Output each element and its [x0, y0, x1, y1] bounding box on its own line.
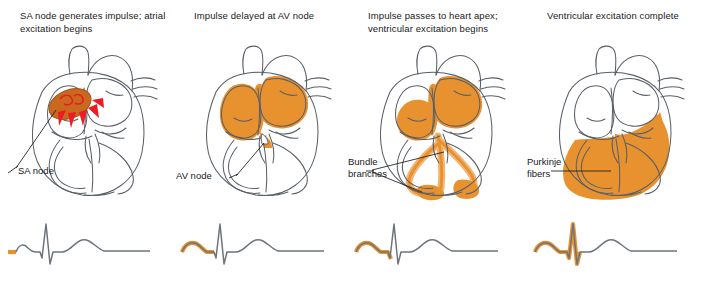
label-bundle-branches-line2: branches — [348, 168, 387, 180]
panel-4: Ventricular excitation complete — [527, 0, 701, 286]
left-atrium-outline — [86, 78, 132, 126]
valve-leaflet-3 — [276, 132, 298, 138]
aorta-outline — [417, 46, 437, 75]
cardiac-conduction-figure: SA node generates impulse; atrial excita… — [0, 0, 714, 286]
ecg-baseline-trace — [16, 224, 150, 264]
label-purkinje-fibers: Purkinje fibers — [527, 156, 561, 180]
panel-caption: SA node generates impulse; atrial excita… — [20, 10, 180, 35]
aorta-outline — [596, 46, 616, 75]
atrial-texture-left — [587, 118, 605, 121]
ecg-baseline-trace — [182, 224, 324, 264]
label-bundle-branches: Bundle branches — [348, 156, 387, 180]
vessel-branch-2 — [133, 87, 157, 89]
panel-1: SA node generates impulse; atrial excita… — [0, 0, 174, 286]
left-atrium-outline — [613, 78, 659, 126]
aorta-outline — [243, 46, 263, 75]
vessel-branch-2 — [481, 87, 505, 89]
heart-diagram-2: AV node — [174, 44, 348, 209]
valve-leaflet-2 — [95, 134, 100, 163]
valve-leaflet-3 — [450, 132, 472, 138]
panel-caption: Ventricular excitation complete — [547, 10, 707, 23]
ecg-trace-3 — [348, 210, 522, 282]
vessel-branch-2 — [307, 87, 331, 89]
atrial-texture-right — [633, 91, 650, 95]
valve-leaflet-3 — [102, 132, 124, 138]
right-ventricle-inner-2 — [55, 147, 85, 189]
vessel-branch-2 — [660, 87, 684, 89]
label-leader-line-av-node — [229, 143, 264, 178]
label-purkinje-fibers-line2: fibers — [527, 168, 561, 180]
right-atrium-outline — [575, 86, 614, 138]
av-valve-ring-right — [95, 128, 126, 134]
av-valve-ring-right — [269, 128, 300, 134]
excited-region-apex — [417, 179, 480, 200]
ecg-baseline-trace — [356, 224, 498, 264]
heart-diagram-1: SA node — [0, 44, 174, 209]
atrial-texture-right — [106, 91, 123, 95]
panel-3: Impulse passes to heart apex; ventricula… — [348, 0, 522, 286]
vessel-branch-1 — [479, 78, 503, 81]
label-bundle-branches-line1: Bundle — [348, 156, 387, 168]
label-purkinje-fibers-line1: Purkinje — [527, 156, 561, 168]
ecg-baseline-trace — [535, 224, 677, 264]
left-ventricle-inner — [273, 143, 307, 194]
panel-2: Impulse delayed at AV node — [174, 0, 348, 286]
label-av-node: AV node — [176, 170, 212, 181]
panel-caption: Impulse passes to heart apex; ventricula… — [368, 10, 528, 35]
av-valve-ring-right — [443, 128, 474, 134]
heart-diagram-4: Purkinje fibers — [527, 44, 701, 209]
aorta-outline — [69, 46, 89, 75]
valve-leaflet-2 — [269, 134, 274, 163]
interventricular-septum — [89, 139, 93, 192]
ecg-trace-2 — [174, 210, 348, 282]
vessel-branch-1 — [131, 78, 155, 81]
heart-diagram-3: Bundle branches — [348, 44, 522, 209]
av-node-region — [261, 134, 268, 144]
right-ventricle-inner-2 — [229, 147, 259, 189]
ecg-trace-1 — [0, 210, 174, 282]
label-sa-node: SA node — [18, 165, 54, 176]
excited-region-ventricles — [563, 112, 669, 200]
panel-caption: Impulse delayed at AV node — [194, 10, 354, 23]
vessel-branch-1 — [658, 78, 682, 81]
left-ventricle-inner — [99, 143, 133, 194]
vessel-branch-1 — [305, 78, 329, 81]
ecg-trace-4 — [527, 210, 701, 282]
